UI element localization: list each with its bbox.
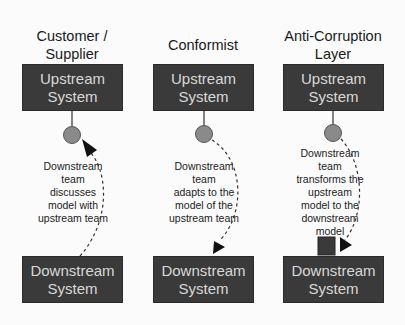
dashed-arrow-icon — [340, 139, 360, 252]
dashed-arrow-icon — [212, 140, 238, 254]
acl-layer-square-icon — [318, 237, 335, 255]
dashed-arrow-icon — [80, 139, 104, 256]
interface-lollipop-icon — [325, 111, 342, 142]
connectors-overlay — [0, 0, 405, 325]
interface-lollipop-icon — [196, 111, 213, 143]
interface-lollipop-icon — [64, 111, 81, 144]
